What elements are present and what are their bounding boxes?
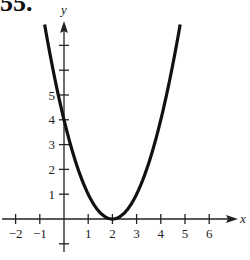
x-tick-label: 3 [133,226,140,241]
x-axis-label: x [239,211,246,226]
parabola-chart: xy −2−112345612345 [0,0,250,260]
x-tick-label: 2 [109,226,116,241]
x-tick-label: −1 [33,226,47,241]
y-tick-label: 1 [49,187,56,202]
y-tick-label: 2 [49,162,56,177]
x-tick-label: 1 [85,226,92,241]
y-tick-label: 4 [49,112,56,127]
y-tick-label: 3 [49,137,56,152]
x-tick-label: 5 [182,226,189,241]
x-tick-label: −2 [9,226,23,241]
x-tick-label: 6 [206,226,213,241]
parabola-curve [45,25,181,219]
axis-ticks [16,45,210,243]
y-axis-label: y [59,2,67,17]
y-tick-label: 5 [49,88,56,103]
x-tick-label: 4 [158,226,165,241]
